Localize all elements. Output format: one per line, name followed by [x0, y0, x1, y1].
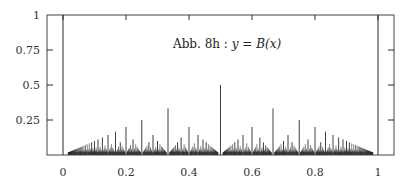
y-tick-label: 1 [33, 9, 40, 22]
y-axis: 0.250.50.751 [16, 9, 395, 127]
y-tick-label: 0.5 [23, 79, 41, 92]
x-tick-label: 0.6 [243, 166, 261, 179]
chart-title: Abb. 8h : y = B(x) [172, 37, 281, 51]
y-tick-label: 0.75 [16, 44, 41, 57]
x-tick-label: 1 [375, 166, 382, 179]
y-tick-label: 0.25 [16, 114, 41, 127]
spike-series [63, 15, 378, 155]
x-tick-label: 0.8 [306, 166, 324, 179]
x-tick-label: 0.2 [117, 166, 135, 179]
x-tick-label: 0.4 [180, 166, 198, 179]
chart: 0.250.50.751 00.20.40.60.81 Abb. 8h : y … [0, 0, 413, 187]
x-tick-label: 0 [60, 166, 67, 179]
